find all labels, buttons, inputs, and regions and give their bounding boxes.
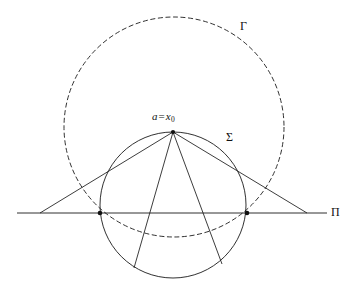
point-apex-marker (171, 130, 175, 134)
label-pi: Π (331, 206, 340, 218)
point-left-intersection (98, 211, 103, 216)
label-apex-subscript: 0 (171, 115, 175, 124)
label-apex-operator: = (158, 110, 166, 122)
label-sigma: Σ (226, 131, 233, 143)
point-right-intersection (245, 211, 250, 216)
label-apex-point: a=x0 (152, 111, 175, 124)
label-apex-target: x (166, 110, 171, 122)
circle-sigma (100, 132, 246, 278)
circle-gamma (64, 17, 284, 237)
ray-outer-right (173, 132, 307, 213)
figure-canvas (0, 0, 352, 297)
ray-inner-right (173, 132, 222, 264)
label-apex-var: a (152, 110, 158, 122)
label-gamma: Γ (240, 20, 247, 32)
geometric-figure: Γ Σ Π a=x0 (0, 0, 352, 297)
